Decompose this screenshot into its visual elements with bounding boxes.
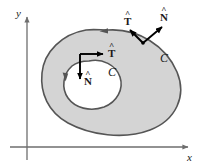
- hat-accent-icon: ^: [85, 70, 90, 79]
- hat-accent-icon: ^: [125, 10, 130, 19]
- figure-container: y x ^T ^N ^T ^N C C: [0, 0, 199, 166]
- hat-accent-icon: ^: [109, 42, 114, 51]
- y-axis-label: y: [16, 8, 21, 19]
- figure-canvas: [0, 0, 199, 166]
- hat-accent-icon: ^: [161, 6, 166, 15]
- x-axis-label: x: [187, 152, 192, 163]
- outer-normal-vector-arrow: [143, 27, 162, 43]
- outer-tangent-label: ^T: [124, 16, 131, 27]
- outer-normal-symbol: ^N: [160, 12, 168, 23]
- outer-vectors-base-point: [141, 41, 145, 45]
- inner-normal-symbol: ^N: [84, 76, 92, 87]
- outer-tangent-symbol: ^T: [124, 16, 131, 27]
- inner-tangent-label: ^T: [108, 48, 115, 59]
- outer-curve-label: C: [160, 52, 168, 64]
- outer-normal-label: ^N: [160, 12, 168, 23]
- inner-tangent-symbol: ^T: [108, 48, 115, 59]
- inner-curve-label: C: [108, 66, 116, 78]
- inner-normal-label: ^N: [84, 76, 92, 87]
